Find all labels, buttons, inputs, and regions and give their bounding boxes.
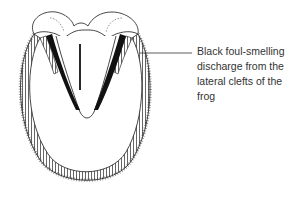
heel-bulbs <box>32 12 138 38</box>
callout-line-2: discharge from the <box>197 59 301 74</box>
callout-line-1: Black foul-smelling <box>197 44 301 59</box>
callout-label: Black foul-smelling discharge from the l… <box>197 44 301 104</box>
callout-line-3: lateral clefts of the <box>197 74 301 89</box>
callout-line-4: frog <box>197 89 301 104</box>
